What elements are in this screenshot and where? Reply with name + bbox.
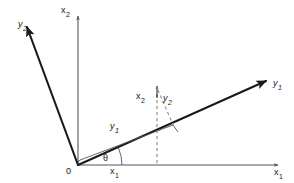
y1-component-label-subscript: 1 — [115, 127, 119, 134]
y1-axis-label-subscript: 1 — [278, 84, 282, 91]
theta-angle-label: θ — [103, 153, 108, 163]
angle-arc-group — [119, 148, 123, 165]
original-axes-group — [78, 16, 278, 165]
x2-component-label-subscript: 2 — [141, 97, 145, 104]
y2-component-label-subscript: 2 — [168, 99, 172, 106]
y2-component-label: y2 — [163, 94, 172, 105]
coordinate-rotation-figure: y2 x2 y1 x1 x1 x2 y2 y1 0 θ — [0, 0, 294, 183]
figure-canvas — [0, 0, 294, 183]
theta-arc — [119, 148, 123, 165]
x1-component-label: x1 — [110, 167, 119, 178]
y1-component-line — [80, 125, 173, 160]
x1-axis-label: x1 — [274, 168, 283, 179]
origin-label: 0 — [66, 166, 71, 176]
y1-component-label: y1 — [110, 122, 119, 133]
y1-component-cap-end — [173, 125, 178, 132]
y2-axis-label-subscript: 2 — [23, 25, 27, 32]
x2-axis-label: x2 — [61, 6, 70, 17]
y2-axis-label: y2 — [18, 20, 27, 31]
rotated-axes-group — [27, 27, 266, 165]
x1-component-label-subscript: 1 — [115, 172, 119, 179]
y1-axis-label: y1 — [273, 79, 282, 90]
x2-component-label: x2 — [136, 92, 145, 103]
x2-axis-label-subscript: 2 — [66, 11, 70, 18]
x1-axis-label-subscript: 1 — [279, 173, 283, 180]
y2-axis-line — [27, 27, 78, 165]
